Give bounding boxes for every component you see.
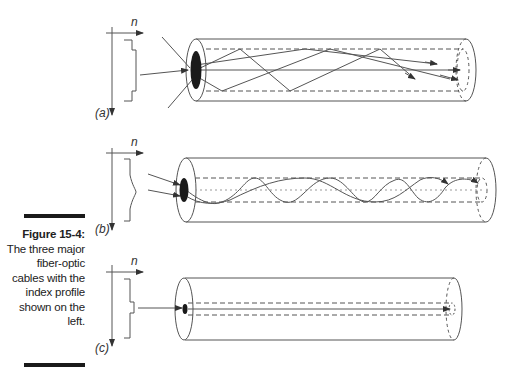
index-profile-c <box>106 265 143 346</box>
panel-a: n (a) <box>95 15 476 120</box>
fiber-core-c <box>183 304 188 314</box>
panel-label-c: (c) <box>95 341 109 355</box>
axis-n-label-c: n <box>131 254 138 268</box>
fiber-cable-a <box>140 37 476 108</box>
fiber-cable-b <box>148 158 496 222</box>
panel-c: n (c) <box>95 254 462 355</box>
index-profile-b <box>106 148 143 230</box>
fiber-optic-diagram: n (a) <box>0 0 514 374</box>
fiber-core-a <box>191 51 202 89</box>
fiber-core-b <box>180 178 189 202</box>
axis-n-label-b: n <box>131 135 138 149</box>
axis-n-label-a: n <box>131 15 138 29</box>
panel-label-b: (b) <box>95 222 110 236</box>
panel-b: n (b) <box>95 135 496 236</box>
index-profile-a <box>106 27 143 115</box>
panel-label-a: (a) <box>95 106 110 120</box>
